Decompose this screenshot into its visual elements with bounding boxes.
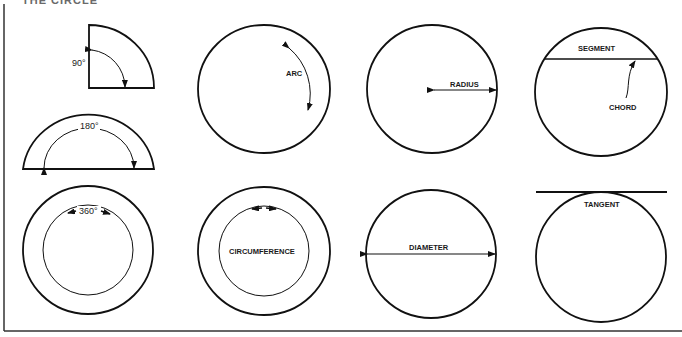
- label-diameter: DIAMETER: [409, 243, 449, 252]
- label-radius: RADIUS: [450, 80, 479, 89]
- circumference-figure: CIRCUMFERENCE: [198, 187, 330, 315]
- quarter-circle-figure: 90°: [72, 25, 154, 88]
- label-90-degrees: 90°: [72, 58, 86, 68]
- label-circumference: CIRCUMFERENCE: [229, 247, 295, 256]
- circle-terms-diagram: 90° 180° 360° ARC CIRCUMFERENCE RADIUS: [0, 0, 682, 337]
- full-circle-figure: 360°: [23, 186, 153, 314]
- diagram-frame: [4, 4, 682, 331]
- label-chord: CHORD: [609, 103, 637, 112]
- diameter-figure: DIAMETER: [366, 190, 496, 318]
- label-360-degrees: 360°: [79, 206, 98, 216]
- half-circle-figure: 180°: [23, 115, 154, 169]
- label-tangent: TANGENT: [584, 200, 620, 209]
- radius-figure: RADIUS: [367, 25, 497, 153]
- arc-figure: ARC: [198, 25, 330, 153]
- label-arc: ARC: [286, 69, 303, 78]
- segment-chord-figure: SEGMENT CHORD: [535, 28, 667, 156]
- label-180-degrees: 180°: [80, 121, 99, 131]
- tangent-figure: TANGENT: [536, 192, 667, 322]
- label-segment: SEGMENT: [578, 44, 616, 53]
